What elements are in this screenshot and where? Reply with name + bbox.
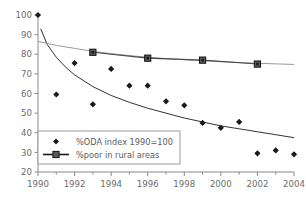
y-tick-label: 30 [21, 148, 32, 158]
x-tick-label: 1990 [27, 179, 49, 189]
x-tick-label: 1994 [100, 179, 122, 189]
x-tick-label: 1996 [137, 179, 159, 189]
x-tick-label: 1992 [64, 179, 86, 189]
x-tick-label: 2004 [283, 179, 305, 189]
y-tick-label: 80 [21, 49, 32, 59]
y-tick-label: 60 [21, 89, 32, 99]
chart-legend: %ODA index 1990=100%poor in rural areas [38, 131, 180, 164]
x-tick-label: 2000 [210, 179, 232, 189]
data-point-square-core [201, 59, 204, 62]
legend-marker-square [53, 151, 59, 157]
data-point-square-core [146, 57, 149, 60]
y-tick-label: 70 [21, 69, 32, 79]
legend-item-label: %poor in rural areas [76, 150, 159, 160]
data-point-square-core [256, 63, 259, 66]
scatter-chart: 2030405060708090100 19901992199419961998… [0, 0, 306, 198]
legend-item-label: %ODA index 1990=100 [76, 137, 173, 147]
y-tick-label: 50 [21, 108, 32, 118]
chart-background [0, 0, 306, 198]
y-tick-label: 20 [21, 167, 32, 177]
chart-container: 2030405060708090100 19901992199419961998… [0, 0, 306, 198]
y-tick-label: 90 [21, 30, 32, 40]
y-tick-label: 100 [16, 10, 32, 20]
data-point-square-core [92, 51, 95, 54]
y-tick-label: 40 [21, 128, 32, 138]
x-tick-label: 1998 [173, 179, 195, 189]
x-tick-label: 2002 [246, 179, 268, 189]
